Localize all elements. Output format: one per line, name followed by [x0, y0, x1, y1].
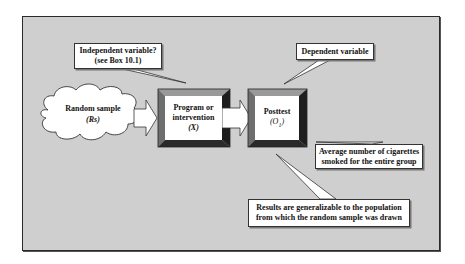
independent-callout-line1: Independent variable? — [79, 46, 156, 56]
program-symbol: (X) — [188, 123, 199, 133]
arrow-sample-to-program — [134, 100, 157, 136]
results-callout-line1: Results are generalizable to the populat… — [256, 203, 401, 213]
posttest-symbol-sub: 1 — [278, 121, 281, 127]
average-callout-line2: smoked for the entire group — [321, 157, 416, 167]
random-sample-symbol: (Rs) — [58, 114, 128, 125]
results-callout-line2: from which the random sample was drawn — [256, 213, 402, 223]
program-label-line1: Program or — [173, 103, 213, 113]
independent-callout-tail — [118, 68, 186, 83]
results-generalizable-callout: Results are generalizable to the populat… — [248, 199, 410, 227]
dependent-callout-tail — [284, 58, 334, 84]
independent-variable-callout: Independent variable? (see Box 10.1) — [74, 43, 162, 69]
average-cigarettes-callout: Average number of cigarettes smoked for … — [315, 144, 423, 169]
dependent-variable-callout: Dependent variable — [296, 43, 374, 60]
posttest-symbol: (O1) — [270, 117, 284, 130]
independent-callout-line2: (see Box 10.1) — [95, 56, 142, 66]
random-sample-label: Random sample (Rs) — [58, 103, 128, 125]
program-node: Program or intervention (X) — [165, 96, 222, 140]
dependent-callout-line1: Dependent variable — [302, 47, 369, 57]
average-callout-line1: Average number of cigarettes — [319, 147, 419, 157]
posttest-label: Posttest — [264, 107, 291, 117]
posttest-node: Posttest (O1) — [255, 96, 299, 140]
random-sample-text: Random sample — [58, 103, 128, 114]
program-label-line2: intervention — [173, 113, 215, 123]
